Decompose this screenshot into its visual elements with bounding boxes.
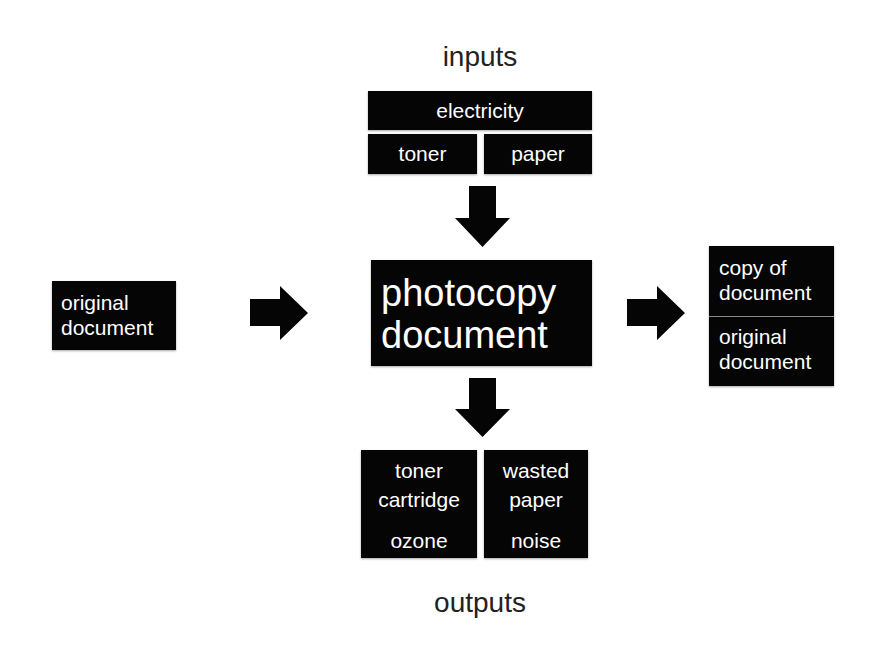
output-left-line-3: ozone	[361, 529, 477, 553]
input-box-toner: toner	[368, 134, 477, 174]
product-original-line-2: document	[719, 349, 811, 374]
arrow-down-icon	[455, 378, 511, 438]
output-box-left: toner cartridge ozone	[361, 450, 477, 558]
arrow-down-icon	[455, 186, 511, 248]
product-copy-line-2: document	[719, 280, 811, 305]
output-right-line-2: paper	[484, 488, 588, 512]
process-box-photocopy-document: photocopy document	[371, 260, 592, 366]
input-box-electricity: electricity	[368, 91, 592, 130]
products-divider	[709, 316, 834, 317]
arrow-right-icon	[627, 286, 686, 341]
source-label-line-1: original	[61, 290, 176, 315]
products-box: copy of document original document	[709, 246, 834, 386]
source-label-line-2: document	[61, 315, 176, 340]
process-label-line-1: photocopy	[381, 272, 592, 314]
source-box-original-document: original document	[52, 281, 176, 350]
product-copy-of-document: copy of document	[719, 255, 811, 305]
output-left-line-2: cartridge	[361, 488, 477, 512]
product-original-line-1: original	[719, 324, 811, 349]
input-box-paper: paper	[484, 134, 592, 174]
product-copy-line-1: copy of	[719, 255, 811, 280]
outputs-heading: outputs	[400, 589, 560, 617]
product-original-document: original document	[719, 324, 811, 374]
output-left-line-1: toner	[361, 459, 477, 483]
arrow-right-icon	[250, 286, 309, 341]
output-box-right: wasted paper noise	[484, 450, 588, 558]
output-right-line-3: noise	[484, 529, 588, 553]
input-label-electricity: electricity	[436, 99, 524, 123]
inputs-heading: inputs	[400, 43, 560, 71]
input-label-paper: paper	[511, 142, 565, 166]
input-label-toner: toner	[399, 142, 447, 166]
process-label-line-2: document	[381, 314, 592, 356]
output-right-line-1: wasted	[484, 459, 588, 483]
